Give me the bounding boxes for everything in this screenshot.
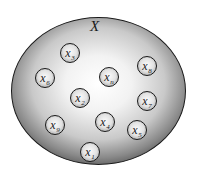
element-label: x5 [132, 124, 141, 136]
element-label: xn [104, 71, 113, 83]
element-label: x7 [142, 95, 151, 107]
element-x1: x1 [80, 142, 100, 162]
element-label: x3 [65, 47, 74, 59]
element-x2: x2 [70, 88, 90, 108]
element-x4: x4 [95, 112, 115, 132]
element-x7: x7 [137, 91, 157, 111]
set-diagram: X x3 x8 x6 xn x2 x7 x9 x4 x5 x1 [0, 0, 202, 183]
element-label: x4 [100, 116, 109, 128]
element-x8: x8 [137, 56, 157, 76]
element-label: x9 [50, 119, 59, 131]
element-label: x8 [142, 60, 151, 72]
set-label: X [90, 19, 99, 34]
element-x9: x9 [45, 115, 65, 135]
set-x-ellipse [11, 17, 186, 165]
element-label: x1 [85, 146, 94, 158]
element-x6: x6 [35, 68, 55, 88]
element-x5: x5 [127, 120, 147, 140]
element-label: x6 [40, 72, 49, 84]
element-x3: x3 [60, 43, 80, 63]
element-xn: xn [99, 67, 119, 87]
element-label: x2 [75, 92, 84, 104]
